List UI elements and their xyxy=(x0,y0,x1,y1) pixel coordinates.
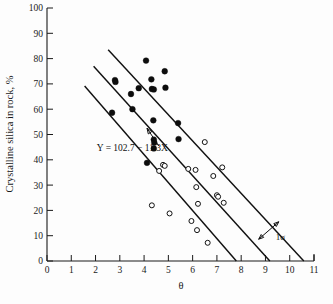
x-tick-label: 11 xyxy=(309,265,318,275)
data-point-open xyxy=(157,168,162,173)
x-tick-label: 5 xyxy=(166,265,171,275)
x-tick-label: 10 xyxy=(285,265,295,275)
y-tick-label: 0 xyxy=(38,256,43,266)
data-point-open xyxy=(162,163,167,168)
x-tick-label: 0 xyxy=(45,265,50,275)
y-tick-label: 30 xyxy=(34,181,44,191)
data-point-filled xyxy=(162,68,168,74)
plot-canvas: 0102030405060708090100 Crystalline silic… xyxy=(0,0,333,304)
y-tick-label: 60 xyxy=(34,105,44,115)
data-point-filled xyxy=(163,85,169,91)
y-tick-marks xyxy=(47,8,53,261)
x-tick-label: 6 xyxy=(190,265,195,275)
sigma-annotation: 1σ xyxy=(259,222,285,242)
data-point-open xyxy=(195,201,200,206)
data-point-open xyxy=(211,173,216,178)
x-axis-title: θ xyxy=(178,280,183,291)
data-point-filled xyxy=(151,87,157,93)
data-point-open xyxy=(202,140,207,145)
y-tick-label: 10 xyxy=(34,231,44,241)
data-point-open xyxy=(186,166,191,171)
data-point-filled xyxy=(130,106,136,112)
x-tick-label: 7 xyxy=(215,265,220,275)
y-tick-label: 50 xyxy=(34,130,44,140)
data-point-filled xyxy=(128,91,134,97)
y-axis-title: Crystalline silica in rock, % xyxy=(4,75,15,192)
data-point-open xyxy=(205,240,210,245)
center-line xyxy=(94,66,270,261)
data-point-filled xyxy=(144,160,150,166)
x-tick-label: 2 xyxy=(93,265,98,275)
x-tick-label: 3 xyxy=(117,265,122,275)
data-point-open xyxy=(149,203,154,208)
x-tick-label: 9 xyxy=(263,265,268,275)
scatter-plot-figure: 0102030405060708090100 Crystalline silic… xyxy=(0,0,333,304)
data-point-open xyxy=(195,228,200,233)
x-tick-label: 4 xyxy=(142,265,147,275)
data-point-filled xyxy=(150,117,156,123)
y-tick-label: 70 xyxy=(34,79,44,89)
data-point-open xyxy=(216,194,221,199)
data-point-filled xyxy=(148,76,154,82)
upper-line xyxy=(108,50,304,261)
x-axis-group: 01234567891011 θ xyxy=(45,254,319,291)
x-tick-label: 8 xyxy=(239,265,244,275)
data-point-open xyxy=(220,165,225,170)
y-tick-label: 90 xyxy=(34,29,44,39)
y-tick-label: 20 xyxy=(34,206,44,216)
data-point-open xyxy=(189,219,194,224)
data-point-open xyxy=(167,211,172,216)
data-point-open xyxy=(221,200,226,205)
open-circle-series xyxy=(149,140,226,246)
data-point-filled xyxy=(109,110,115,116)
x-tick-marks xyxy=(47,255,314,261)
sigma-label: 1σ xyxy=(276,232,286,242)
data-point-filled xyxy=(176,136,182,142)
data-point-filled xyxy=(113,79,119,85)
regression-equation-label: Y = 102.7 − 11.3X xyxy=(97,143,168,153)
data-point-open xyxy=(193,167,198,172)
data-point-open xyxy=(194,185,199,190)
y-tick-labels: 0102030405060708090100 xyxy=(29,3,44,266)
x-tick-label: 1 xyxy=(69,265,74,275)
y-tick-label: 80 xyxy=(34,54,44,64)
y-tick-label: 40 xyxy=(34,155,44,165)
data-point-filled xyxy=(143,58,149,64)
y-axis-group: 0102030405060708090100 Crystalline silic… xyxy=(4,3,53,266)
data-point-filled xyxy=(136,85,142,91)
data-point-filled xyxy=(175,120,181,126)
y-tick-label: 100 xyxy=(29,3,44,13)
x-tick-labels: 01234567891011 xyxy=(45,265,319,275)
